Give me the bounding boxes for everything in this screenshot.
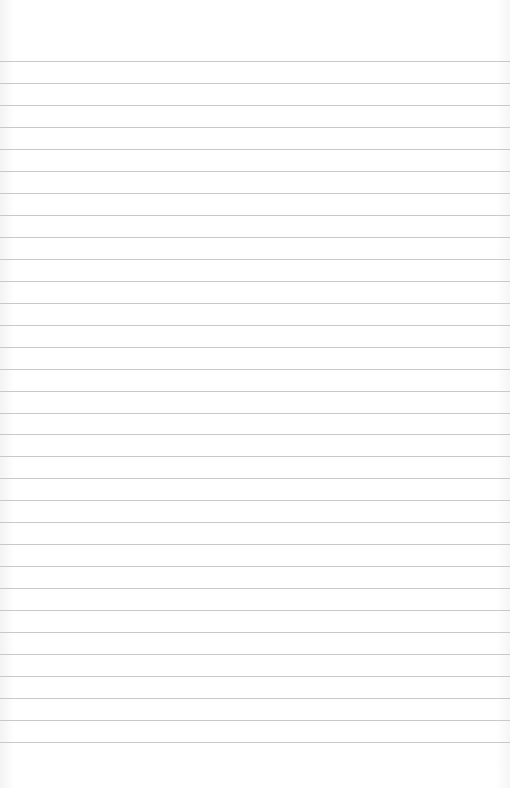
ruled-line bbox=[0, 347, 510, 348]
ruled-line bbox=[0, 61, 510, 62]
ruled-line bbox=[0, 391, 510, 392]
lined-paper-sheet bbox=[0, 0, 510, 788]
ruled-line bbox=[0, 632, 510, 633]
ruled-line bbox=[0, 237, 510, 238]
ruled-line bbox=[0, 259, 510, 260]
ruled-line bbox=[0, 83, 510, 84]
ruled-line bbox=[0, 676, 510, 677]
ruled-line bbox=[0, 413, 510, 414]
ruled-line bbox=[0, 369, 510, 370]
ruled-line bbox=[0, 105, 510, 106]
ruled-line bbox=[0, 610, 510, 611]
ruled-line bbox=[0, 127, 510, 128]
ruled-line bbox=[0, 544, 510, 545]
ruled-line bbox=[0, 720, 510, 721]
ruled-line bbox=[0, 698, 510, 699]
ruled-line bbox=[0, 742, 510, 743]
ruled-line bbox=[0, 171, 510, 172]
ruled-line bbox=[0, 500, 510, 501]
ruled-line bbox=[0, 654, 510, 655]
ruled-line bbox=[0, 303, 510, 304]
ruled-line bbox=[0, 588, 510, 589]
ruled-line bbox=[0, 566, 510, 567]
ruled-line bbox=[0, 434, 510, 435]
ruled-line bbox=[0, 456, 510, 457]
ruled-line bbox=[0, 325, 510, 326]
ruled-line bbox=[0, 478, 510, 479]
ruled-line bbox=[0, 215, 510, 216]
ruled-line bbox=[0, 522, 510, 523]
ruled-line bbox=[0, 149, 510, 150]
ruled-line bbox=[0, 193, 510, 194]
ruled-line bbox=[0, 281, 510, 282]
